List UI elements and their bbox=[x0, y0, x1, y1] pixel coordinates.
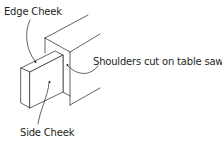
side-cheek-arrow-dot bbox=[49, 81, 51, 83]
tenon-block bbox=[21, 51, 63, 108]
side-cheek-label: Side Cheek bbox=[20, 128, 74, 138]
shoulders-label: Shoulders cut on table saw. bbox=[93, 57, 222, 67]
shoulders-leader bbox=[68, 66, 98, 74]
edge-cheek-leader bbox=[27, 20, 35, 61]
tenon-end-face bbox=[21, 68, 30, 108]
edge-cheek-arrow-dot bbox=[35, 61, 37, 63]
edge-cheek-label: Edge Cheek bbox=[4, 7, 62, 17]
shoulders-arrow-dot bbox=[67, 64, 69, 66]
tenon-diagram: Edge Cheek Shoulders cut on table saw. S… bbox=[0, 0, 222, 151]
